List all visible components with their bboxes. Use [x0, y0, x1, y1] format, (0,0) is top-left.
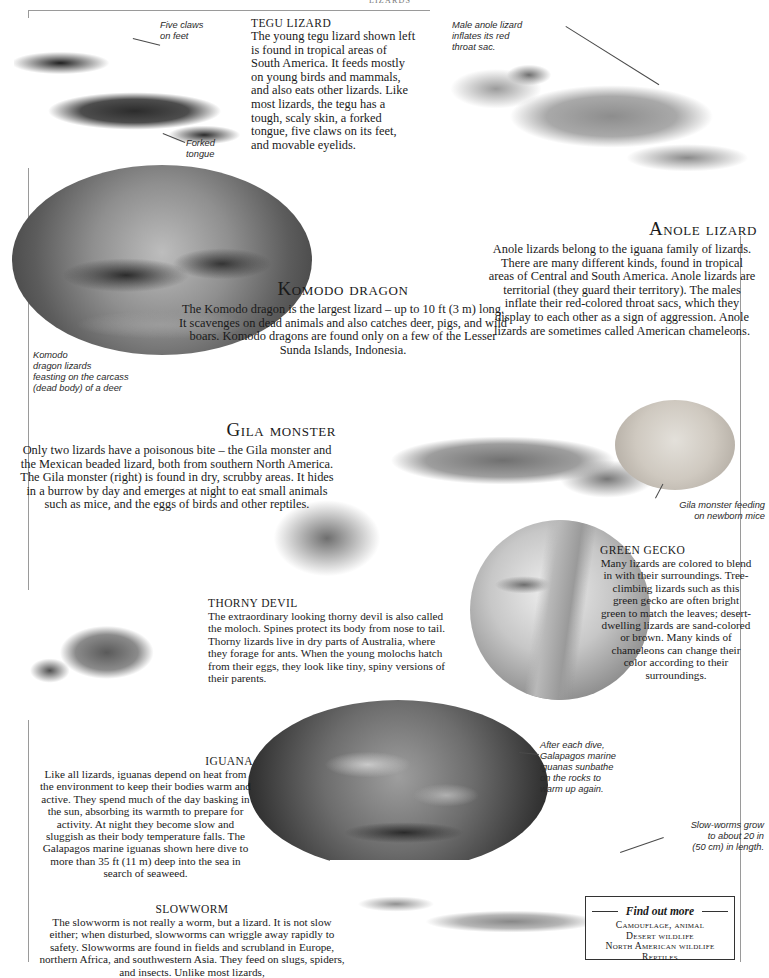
gila-monster-feeding-image: [615, 400, 735, 490]
komodo-dragon-body: The Komodo dragon is the largest lizard …: [178, 303, 508, 357]
find-out-more-box: Find out more Camouflage, animal Desert …: [585, 896, 735, 960]
green-gecko-heading: GREEN GECKO: [600, 544, 752, 556]
thorny-devil-heading: THORNY DEVIL: [208, 597, 456, 609]
tegu-lizard-heading: TEGU LIZARD: [251, 17, 416, 29]
find-out-more-item[interactable]: Reptiles: [592, 952, 728, 963]
leader-line-slowworm-length: [620, 837, 664, 853]
annotation-forked-tongue: Forked tongue: [186, 138, 256, 160]
thorny-devil-image: [8, 590, 198, 720]
annotation-galapagos: After each dive, Galapagos marine iguana…: [540, 740, 660, 795]
section-slowworm: SLOWWORM The slowworm is not really a wo…: [38, 903, 346, 978]
komodo-dragon-heading: Komodo dragon: [178, 278, 508, 300]
running-head: LIZARDS: [330, 0, 450, 5]
green-gecko-body: Many lizards are colored to blend in wit…: [600, 557, 752, 681]
section-tegu-lizard: TEGU LIZARD The young tegu lizard shown …: [251, 17, 416, 152]
anole-lizard-heading: Anole lizard: [487, 218, 757, 240]
annotation-komodo-caption: Komodo dragon lizards feasting on the ca…: [33, 350, 183, 394]
anole-lizard-body: Anole lizards belong to the iguana famil…: [487, 243, 757, 338]
section-anole-lizard: Anole lizard Anole lizards belong to the…: [487, 218, 757, 338]
section-komodo-dragon: Komodo dragon The Komodo dragon is the l…: [178, 278, 508, 357]
section-gila-monster: Gila monster Only two lizards have a poi…: [18, 419, 336, 512]
find-out-more-title: Find out more: [618, 905, 702, 917]
slowworm-body: The slowworm is not really a worm, but a…: [38, 916, 346, 978]
annotation-gila-mice: Gila monster feeding on newborn mice: [660, 500, 765, 522]
slowworm-heading: SLOWWORM: [38, 903, 346, 915]
find-out-more-list: Camouflage, animal Desert wildlife North…: [592, 920, 728, 962]
gila-monster-heading: Gila monster: [18, 419, 336, 441]
section-green-gecko: GREEN GECKO Many lizards are colored to …: [600, 544, 752, 681]
tegu-lizard-body: The young tegu lizard shown left is foun…: [251, 30, 416, 152]
find-out-more-item[interactable]: Camouflage, animal: [592, 920, 728, 931]
section-iguana: IGUANA Like all lizards, iguanas depend …: [38, 755, 253, 880]
annotation-male-anole: Male anole lizard inflates its red throa…: [452, 20, 562, 53]
annotation-five-claws: Five claws on feet: [160, 20, 250, 42]
thorny-devil-body: The extraordinary looking thorny devil i…: [208, 610, 456, 684]
annotation-slowworm-length: Slow-worms grow to about 20 in (50 cm) i…: [664, 820, 764, 853]
galapagos-iguanas-image: [248, 700, 548, 870]
gila-monster-body: Only two lizards have a poisonous bite –…: [18, 444, 336, 512]
iguana-body: Like all lizards, iguanas depend on heat…: [38, 768, 253, 880]
iguana-heading: IGUANA: [38, 755, 253, 767]
section-thorny-devil: THORNY DEVIL The extraordinary looking t…: [208, 597, 456, 684]
